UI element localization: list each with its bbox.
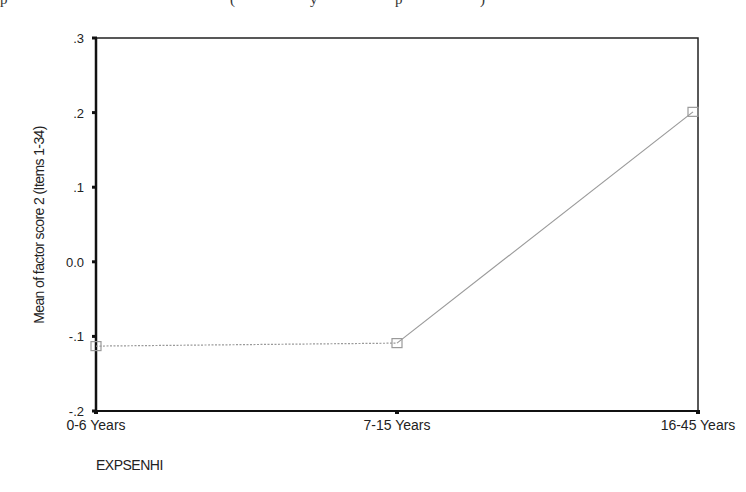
y-tick-label: .2 (73, 106, 84, 121)
x-tick-mark (696, 410, 700, 414)
y-tick-label: .3 (73, 31, 84, 46)
x-tick-mark (94, 410, 98, 414)
line-chart: .3.2.10.0-.1-.2 0-6 Years7-15 Years16-45… (0, 0, 746, 492)
x-tick-label: 16-45 Years (661, 417, 736, 433)
plot-frame (96, 38, 698, 411)
x-tick-label: 7-15 Years (364, 417, 431, 433)
x-ticks: 0-6 Years7-15 Years16-45 Years (66, 410, 735, 433)
y-axis-label: Mean of factor score 2 (Items 1-34) (31, 126, 47, 324)
y-tick-label: -.1 (69, 329, 84, 344)
x-tick-mark (395, 410, 399, 414)
y-tick-label: 0.0 (66, 255, 84, 270)
y-ticks: .3.2.10.0-.1-.2 (66, 31, 97, 419)
series-line-segment (96, 343, 397, 346)
x-axis-label: EXPSENHI (96, 457, 163, 473)
data-series (91, 107, 698, 350)
series-line-segment (397, 112, 693, 343)
y-tick-label: .1 (73, 180, 84, 195)
x-tick-label: 0-6 Years (66, 417, 125, 433)
